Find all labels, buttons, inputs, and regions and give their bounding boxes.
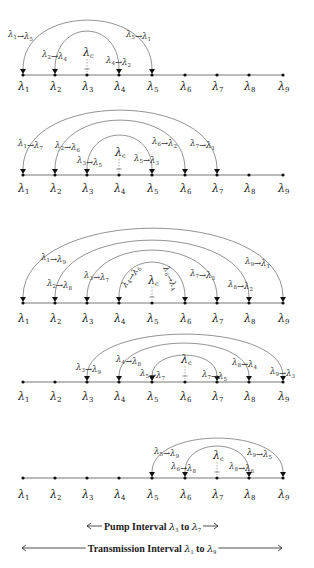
arrow-head-icon: [52, 69, 58, 74]
conversion-label: λ9→λ5: [246, 447, 272, 460]
wavelength-label: λ1: [17, 390, 29, 404]
wavelength-label: λ6: [179, 312, 192, 326]
arrow-head-icon: [20, 169, 26, 174]
wavelength-label: λ9: [277, 182, 289, 196]
conversion-label: λ7→λ3: [189, 268, 215, 281]
wavelength-label: λ6: [179, 488, 192, 502]
pump-label: λc: [147, 274, 159, 288]
fwm-panel-1: λ1λ2λ3λ4λ5λ6λ7λ8λ9λcλ1→λ5λ5→λ1λ2→λ4λ4→λ2: [7, 20, 289, 94]
fwm-panel-5: λ1λ2λ3λ4λ5λ6λ7λ8λ9λcλ5→λ9λ9→λ5λ6→λ8λ8→λ6: [17, 438, 289, 502]
fwm-panel-3: λ1λ2λ3λ4λ5λ6λ7λ8λ9λcλ1→λ9λ9→λ1λ2→λ8λ8→λ2…: [17, 228, 289, 326]
arrow-head-icon: [246, 376, 252, 381]
channel-dot: [215, 476, 218, 479]
arrow-head-icon: [52, 169, 58, 174]
wavelength-label: λ7: [211, 80, 223, 94]
wavelength-label: λ3: [81, 182, 93, 196]
conversion-label: λ9→λ3: [269, 366, 295, 379]
pump-label: λc: [114, 146, 126, 160]
conversion-label: λ6→λ4: [158, 263, 182, 292]
channel-dot: [183, 73, 186, 76]
arrow-head-icon: [149, 169, 155, 174]
conversion-label: λ5→λ7: [139, 368, 165, 381]
conversion-label: λ7→λ1: [189, 138, 215, 151]
wavelength-label: λ9: [277, 390, 289, 404]
wavelength-label: λ3: [81, 488, 93, 502]
conversion-label: λ5→λ1: [125, 29, 151, 42]
conversion-label: λ2→λ4: [41, 49, 67, 62]
wavelength-label: λ2: [49, 80, 61, 94]
channel-dot: [215, 73, 218, 76]
arrow-head-icon: [20, 297, 26, 302]
channel-dot: [150, 301, 153, 304]
conversion-label: λ1→λ7: [17, 138, 43, 151]
wavelength-label: λ5: [146, 80, 158, 94]
wavelength-label: λ8: [243, 80, 255, 94]
svg-text:Transmission Interval λ1 to λ9: Transmission Interval λ1 to λ9: [88, 543, 217, 555]
channel-dot: [21, 476, 24, 479]
conversion-label: λ4→λ8: [115, 354, 141, 367]
arrow-head-icon: [84, 169, 90, 174]
channel-dot: [117, 173, 120, 176]
wavelength-label: λ2: [49, 390, 61, 404]
conversion-arc: [23, 20, 152, 69]
channel-dot: [183, 380, 186, 383]
wavelength-label: λ8: [243, 390, 255, 404]
conversion-label: λ6→λ8: [170, 461, 196, 474]
wavelength-label: λ7: [211, 488, 223, 502]
arrow-head-icon: [84, 297, 90, 302]
wavelength-label: λ5: [146, 312, 158, 326]
conversion-label: λ8→λ2: [227, 279, 253, 292]
four-wave-mixing-diagram: λ1λ2λ3λ4λ5λ6λ7λ8λ9λcλ1→λ5λ5→λ1λ2→λ4λ4→λ2…: [0, 0, 314, 568]
arrow-head-icon: [246, 297, 252, 302]
channel-dot: [247, 73, 250, 76]
channel-dot: [53, 476, 56, 479]
wavelength-label: λ6: [179, 182, 192, 196]
wavelength-label: λ1: [17, 312, 29, 326]
conversion-label: λ5→λ9: [153, 446, 179, 459]
conversion-label: λ3→λ7: [83, 270, 109, 283]
transmission-interval: Transmission Interval λ1 to λ9: [22, 543, 282, 555]
arrow-head-icon: [116, 69, 122, 74]
arrow-head-icon: [280, 297, 286, 302]
conversion-label: λ2→λ8: [46, 278, 72, 291]
conversion-label: λ2→λ6: [54, 140, 80, 153]
wavelength-label: λ1: [17, 488, 29, 502]
arrow-head-icon: [214, 297, 220, 302]
conversion-label: λ6→λ2: [151, 136, 177, 149]
wavelength-label: λ9: [277, 312, 289, 326]
wavelength-label: λ2: [49, 182, 61, 196]
wavelength-label: λ2: [49, 312, 61, 326]
arrow-head-icon: [116, 297, 122, 302]
conversion-label: λ5→λ3: [133, 153, 159, 166]
channel-dot: [53, 380, 56, 383]
arrow-head-icon: [84, 376, 90, 381]
channel-dot: [117, 476, 120, 479]
conversion-label: λ8→λ4: [231, 357, 257, 370]
pump-interval: Pump Interval λ3 to λ7: [87, 521, 218, 533]
wavelength-label: λ6: [179, 390, 192, 404]
wavelength-label: λ9: [277, 80, 289, 94]
conversion-label: λ3→λ9: [75, 362, 101, 375]
wavelength-label: λ6: [179, 80, 192, 94]
pump-label: λc: [82, 46, 94, 60]
wavelength-label: λ9: [277, 488, 289, 502]
wavelength-label: λ4: [113, 390, 126, 404]
wavelength-label: λ1: [17, 80, 29, 94]
channel-dot: [85, 73, 88, 76]
conversion-arc: [23, 110, 217, 169]
conversion-label: λ4→λ6: [119, 262, 143, 291]
wavelength-label: λ8: [243, 488, 255, 502]
arrow-head-icon: [149, 472, 155, 477]
fwm-panel-4: λ1λ2λ3λ4λ5λ6λ7λ8λ9λcλ3→λ9λ9→λ3λ4→λ8λ8→λ4…: [17, 334, 295, 404]
wavelength-label: λ4: [113, 80, 126, 94]
wavelength-label: λ3: [81, 390, 93, 404]
channel-dot: [281, 73, 284, 76]
wavelength-label: λ7: [211, 312, 223, 326]
arrow-head-icon: [20, 69, 26, 74]
wavelength-label: λ4: [113, 488, 126, 502]
arrow-head-icon: [52, 297, 58, 302]
conversion-label: λ8→λ6: [228, 461, 254, 474]
arrow-head-icon: [116, 376, 122, 381]
conversion-label: λ9→λ1: [244, 256, 270, 269]
wavelength-label: λ5: [146, 488, 158, 502]
